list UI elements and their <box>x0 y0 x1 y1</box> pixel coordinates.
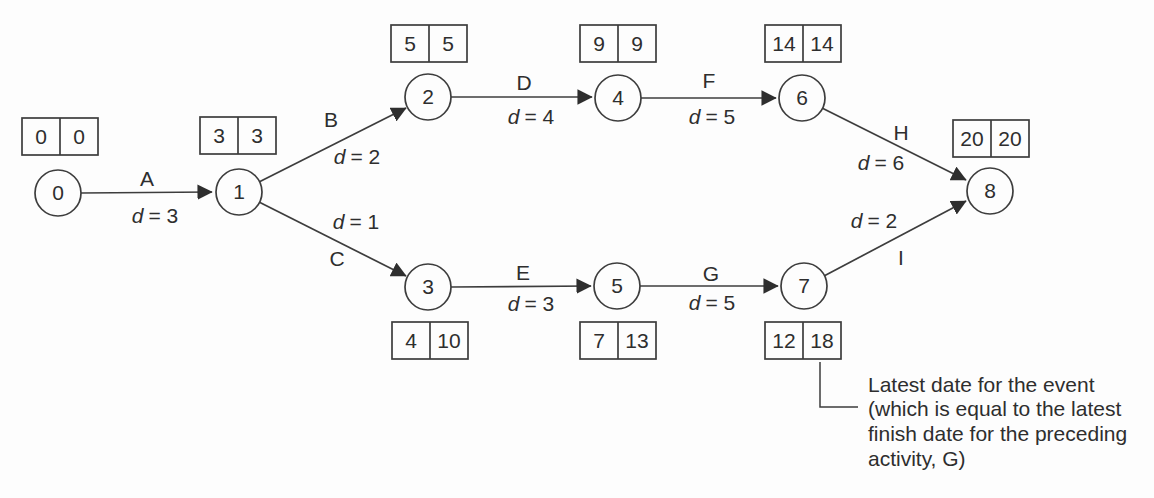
d-symbol: d <box>334 145 347 168</box>
network-diagram-svg: A B C D E F G H I d= 3 d= 2 d= 1 d= 4 d=… <box>0 0 1154 498</box>
d-symbol: d <box>132 204 145 227</box>
d-symbol: d <box>858 151 871 174</box>
d-value: = 4 <box>524 105 554 128</box>
d-symbol: d <box>689 291 702 314</box>
event-number-5: 5 <box>611 274 623 297</box>
timebox-4: 9 9 <box>580 25 656 62</box>
activity-D-duration: d= 4 <box>508 105 555 128</box>
activity-A-arrow <box>81 192 212 193</box>
timebox-7-late: 18 <box>810 329 833 352</box>
annotation-callout: Latest date for the event (which is equa… <box>820 362 1127 470</box>
event-node-1: 1 <box>216 169 262 215</box>
timebox-8-late: 20 <box>998 127 1021 150</box>
timebox-0-early: 0 <box>35 125 47 148</box>
activity-H-label: H <box>893 121 908 144</box>
event-number-8: 8 <box>984 179 996 202</box>
activity-F-label: F <box>703 69 716 92</box>
activity-E-label: E <box>516 261 530 284</box>
activity-A-duration: d= 3 <box>132 204 178 227</box>
d-symbol: d <box>333 210 346 233</box>
timebox-0-late: 0 <box>73 125 85 148</box>
event-number-0: 0 <box>52 181 64 204</box>
timebox-6: 14 14 <box>765 25 841 62</box>
timebox-5-early: 7 <box>593 329 605 352</box>
timebox-3-late: 10 <box>437 329 460 352</box>
event-number-1: 1 <box>233 180 245 203</box>
d-symbol: d <box>508 105 521 128</box>
timebox-6-early: 14 <box>772 32 796 55</box>
network-diagram-figure: A B C D E F G H I d= 3 d= 2 d= 1 d= 4 d=… <box>0 0 1154 498</box>
d-value: = 3 <box>148 204 178 227</box>
timebox-4-late: 9 <box>631 32 643 55</box>
activity-G-label: G <box>703 262 719 285</box>
timebox-7-early: 12 <box>772 329 795 352</box>
timebox-8: 20 20 <box>953 120 1029 157</box>
event-number-3: 3 <box>422 275 434 298</box>
timebox-2-late: 5 <box>442 32 454 55</box>
annotation-leader-line <box>820 362 858 407</box>
timebox-1-late: 3 <box>251 124 263 147</box>
timebox-1-early: 3 <box>213 124 225 147</box>
event-node-8: 8 <box>967 168 1013 214</box>
timebox-5-late: 13 <box>625 329 648 352</box>
event-number-2: 2 <box>422 85 434 108</box>
event-number-6: 6 <box>796 86 808 109</box>
event-node-0: 0 <box>35 170 81 216</box>
timebox-7: 12 18 <box>765 322 841 359</box>
d-value: = 5 <box>705 291 735 314</box>
event-node-4: 4 <box>595 75 641 121</box>
annotation-text-line-3: finish date for the preceding <box>868 422 1127 445</box>
timebox-2: 5 5 <box>391 25 467 62</box>
activity-E-duration: d= 3 <box>508 292 554 315</box>
activity-G-duration: d= 5 <box>689 291 735 314</box>
d-value: = 6 <box>874 151 904 174</box>
event-node-3: 3 <box>405 264 451 310</box>
timebox-6-late: 14 <box>810 32 834 55</box>
activity-B-label: B <box>324 108 338 131</box>
event-number-7: 7 <box>798 274 810 297</box>
d-value: = 2 <box>867 209 897 232</box>
activity-I-duration: d= 2 <box>851 209 897 232</box>
activity-C-duration: d= 1 <box>333 210 379 233</box>
timebox-8-early: 20 <box>960 127 983 150</box>
d-value: = 1 <box>349 210 379 233</box>
timebox-5: 7 13 <box>580 322 656 359</box>
d-symbol: d <box>851 209 864 232</box>
activity-E-arrow <box>451 286 591 287</box>
timebox-3: 4 10 <box>392 322 468 359</box>
activity-F-duration: d= 5 <box>689 105 735 128</box>
timebox-3-early: 4 <box>405 329 417 352</box>
annotation-text-line-4: activity, G) <box>868 447 966 470</box>
event-node-7: 7 <box>781 263 827 309</box>
timebox-0: 0 0 <box>22 118 98 155</box>
event-node-2: 2 <box>405 74 451 120</box>
activity-C-label: C <box>329 247 344 270</box>
activity-H-duration: d= 6 <box>858 151 904 174</box>
timebox-1: 3 3 <box>200 117 276 154</box>
annotation-text-line-2: (which is equal to the latest <box>868 397 1121 420</box>
timebox-4-early: 9 <box>593 32 605 55</box>
activity-I-label: I <box>898 246 904 269</box>
d-symbol: d <box>689 105 702 128</box>
d-symbol: d <box>508 292 521 315</box>
d-value: = 5 <box>705 105 735 128</box>
activity-B-duration: d= 2 <box>334 145 380 168</box>
d-value: = 2 <box>350 145 380 168</box>
d-value: = 3 <box>524 292 554 315</box>
annotation-text-line-1: Latest date for the event <box>868 373 1095 396</box>
event-number-4: 4 <box>612 86 624 109</box>
activity-A-label: A <box>140 167 154 190</box>
event-node-5: 5 <box>594 263 640 309</box>
activity-D-label: D <box>516 71 531 94</box>
event-node-6: 6 <box>779 75 825 121</box>
timebox-2-early: 5 <box>404 32 416 55</box>
